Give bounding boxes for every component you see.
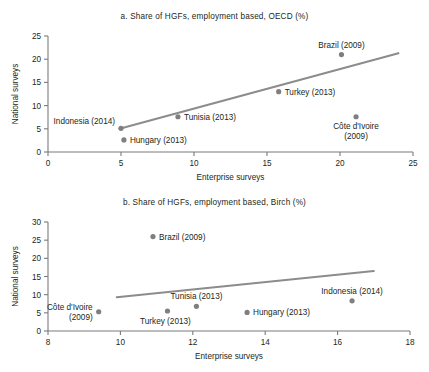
data-point-label: Indonesia (2014) [54, 117, 116, 126]
data-point-marker [175, 114, 180, 119]
x-tick-label: 16 [333, 338, 343, 347]
data-point-marker [96, 309, 101, 314]
y-tick-label: 5 [36, 125, 41, 134]
data-point-label: Hungary (2013) [130, 136, 187, 145]
chart-panel-b: b. Share of HGFs, employment based, Birc… [0, 186, 429, 372]
y-tick-label: 10 [32, 291, 42, 300]
panel-b-plot: 81012141618051015202530Côte d'Ivoire(200… [0, 186, 429, 372]
data-point-label: (2009) [344, 132, 368, 141]
data-point-marker [118, 126, 123, 131]
chart-panel-a: a. Share of HGFs, employment based, OECD… [0, 0, 429, 186]
data-point-label: Brazil (2009) [159, 233, 206, 242]
x-tick-label: 8 [46, 338, 51, 347]
data-point-label: Hungary (2013) [253, 308, 310, 317]
y-tick-label: 25 [32, 32, 42, 41]
data-point-label: Tunisia (2013) [170, 292, 222, 301]
x-tick-label: 25 [408, 159, 418, 168]
y-axis-title: National surveys [11, 246, 20, 307]
y-tick-label: 20 [32, 254, 42, 263]
y-tick-label: 0 [36, 327, 41, 336]
data-point-label: Turkey (2013) [285, 88, 336, 97]
x-axis-title: Enterprise surveys [195, 352, 263, 361]
data-point-label: Tunisia (2013) [184, 113, 236, 122]
x-axis-title: Enterprise surveys [197, 173, 265, 182]
data-point-label: (2009) [69, 313, 93, 322]
x-tick-label: 20 [335, 159, 345, 168]
x-tick-label: 15 [262, 159, 272, 168]
y-tick-label: 30 [32, 218, 42, 227]
data-point-marker [276, 89, 281, 94]
y-tick-label: 5 [36, 309, 41, 318]
y-tick-label: 10 [32, 102, 42, 111]
panel-a-plot: 05101520250510152025Indonesia (2014)Hung… [0, 0, 429, 186]
x-tick-label: 18 [405, 338, 415, 347]
data-point-marker [150, 234, 155, 239]
data-point-label: Côte d'Ivoire [333, 122, 379, 131]
data-point-marker [353, 114, 358, 119]
data-point-marker [349, 298, 354, 303]
x-tick-label: 10 [116, 338, 126, 347]
data-point-label: Turkey (2013) [140, 317, 191, 326]
x-tick-label: 10 [189, 159, 199, 168]
data-point-marker [339, 52, 344, 57]
x-tick-label: 5 [119, 159, 124, 168]
x-tick-label: 14 [261, 338, 271, 347]
figure-container: a. Share of HGFs, employment based, OECD… [0, 0, 429, 372]
y-tick-label: 0 [36, 148, 41, 157]
data-point-marker [121, 137, 126, 142]
data-point-label: Indonesia (2014) [321, 287, 383, 296]
data-point-marker [245, 310, 250, 315]
data-point-label: Côte d'Ivoire [47, 303, 93, 312]
x-tick-label: 0 [46, 159, 51, 168]
data-point-marker [165, 308, 170, 313]
y-axis-title: National surveys [11, 64, 20, 125]
y-tick-label: 20 [32, 55, 42, 64]
y-tick-label: 15 [32, 273, 42, 282]
y-tick-label: 15 [32, 78, 42, 87]
y-tick-label: 25 [32, 236, 42, 245]
x-tick-label: 12 [188, 338, 198, 347]
data-point-label: Brazil (2009) [318, 41, 365, 50]
data-point-marker [194, 304, 199, 309]
